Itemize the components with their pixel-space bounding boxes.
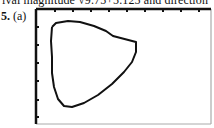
closed-curve [51,21,136,107]
graph-frame [36,9,211,124]
calculator-graph [34,7,214,128]
problem-label: 5. (a) [1,9,26,24]
problem-part: (a) [13,9,26,23]
problem-number: 5. [1,9,10,23]
